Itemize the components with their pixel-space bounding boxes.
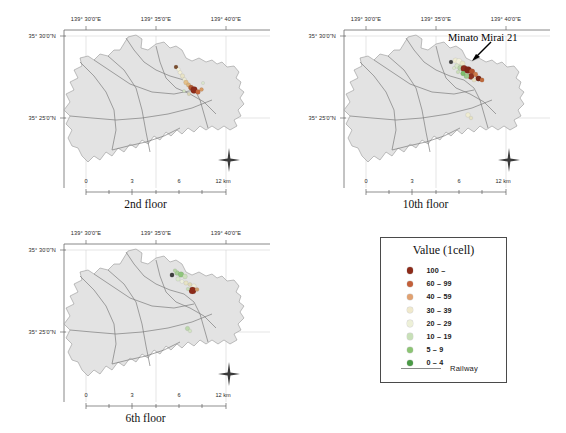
scale-bar	[86, 189, 226, 195]
map-data-point	[461, 71, 466, 76]
lon-tick-2: 139° 40'0"E	[491, 16, 521, 22]
legend-entry-label: 20 – 29	[426, 319, 451, 328]
lon-tick-2: 139° 40'0"E	[211, 16, 241, 22]
scale-tick-2: 6	[457, 178, 460, 184]
annotation-arrow-icon	[472, 42, 491, 61]
scale-tick-0: 0	[84, 178, 87, 184]
yokohama-landmass	[64, 35, 244, 162]
lon-tick-1: 139° 35'0"E	[421, 16, 451, 22]
map-data-point	[186, 287, 190, 291]
legend-entry: 30 – 39	[407, 304, 452, 317]
legend-swatch-icon	[407, 281, 413, 287]
map-data-point	[456, 70, 460, 74]
lon-tick-0: 139° 30'0"E	[71, 16, 101, 22]
panel-title-2nd-floor: 2nd floor	[8, 198, 283, 210]
map-data-point	[183, 274, 188, 279]
lon-tick-0: 139° 30'0"E	[351, 16, 381, 22]
lat-tick-0: 35° 30'0"N	[2, 33, 56, 39]
scale-tick-3: 12 km	[495, 178, 510, 184]
legend-railway-row: Railway	[401, 364, 478, 373]
legend-entry: 40 – 59	[407, 290, 452, 303]
scale-tick-3: 12 km	[215, 178, 230, 184]
legend-swatch-icon	[407, 333, 413, 339]
scale-tick-1: 3	[130, 178, 133, 184]
compass-rose-icon	[498, 148, 520, 172]
lon-tick-2: 139° 40'0"E	[211, 230, 241, 236]
legend-entry-label: 100 –	[426, 266, 445, 275]
compass-rose-icon	[218, 148, 240, 172]
map-data-point	[170, 273, 174, 277]
scale-tick-0: 0	[84, 392, 87, 398]
map-panel-2nd-floor: 139° 30'0"E 139° 35'0"E 139° 40'0"E 35° …	[8, 6, 283, 216]
legend-entry: 20 – 29	[407, 317, 452, 330]
map-data-point	[189, 287, 196, 294]
legend-entry: 10 – 19	[407, 330, 452, 343]
lon-tick-1: 139° 35'0"E	[141, 16, 171, 22]
legend-swatch-icon	[407, 347, 413, 353]
map-data-point	[178, 71, 182, 75]
map-data-point	[182, 89, 185, 92]
legend-entry-label: 5 – 9	[426, 345, 443, 354]
map-data-point	[180, 280, 184, 284]
scale-tick-2: 6	[177, 392, 180, 398]
map-data-point	[452, 66, 455, 69]
legend-entry-list: 100 –60 – 9940 – 5930 – 3920 – 2910 – 19…	[407, 264, 452, 370]
map-data-point	[188, 329, 192, 333]
scale-tick-3: 12 km	[215, 392, 230, 398]
map-data-point	[187, 92, 191, 96]
map-data-point	[195, 288, 199, 292]
map-data-point	[449, 60, 453, 64]
legend-entry-label: 10 – 19	[426, 332, 451, 341]
map-data-point	[184, 281, 188, 285]
legend-swatch-icon	[407, 294, 413, 300]
legend-entry: 5 – 9	[407, 343, 452, 356]
lat-tick-0: 35° 30'0"N	[2, 247, 56, 253]
yokohama-landmass	[64, 249, 244, 376]
scale-bar	[86, 403, 226, 409]
figure-root: 139° 30'0"E 139° 35'0"E 139° 40'0"E 35° …	[0, 0, 566, 433]
legend-railway-label: Railway	[450, 364, 478, 373]
legend-swatch-icon	[407, 267, 413, 273]
legend-panel: Value (1cell) 100 –60 – 9940 – 5930 – 39…	[380, 237, 507, 383]
map-data-point	[472, 78, 476, 82]
map-panel-6th-floor: 139° 30'0"E 139° 35'0"E 139° 40'0"E 35° …	[8, 220, 283, 430]
lat-tick-1: 35° 25'0"N	[282, 115, 336, 121]
legend-title: Value (1cell)	[381, 243, 506, 258]
panel-title-6th-floor: 6th floor	[8, 412, 283, 424]
map-data-point	[176, 277, 180, 281]
map-panel-10th-floor: 139° 30'0"E 139° 35'0"E 139° 40'0"E 35° …	[288, 6, 563, 216]
map-data-point	[173, 269, 177, 273]
legend-entry: 60 – 99	[407, 277, 452, 290]
scale-tick-1: 3	[130, 392, 133, 398]
panel-title-10th-floor: 10th floor	[288, 198, 563, 210]
legend-swatch-icon	[407, 307, 413, 313]
legend-swatch-icon	[407, 320, 413, 326]
yokohama-landmass	[344, 35, 524, 162]
legend-entry-label: 60 – 99	[426, 279, 451, 288]
legend-entry: 100 –	[407, 264, 452, 277]
scale-tick-0: 0	[364, 178, 367, 184]
legend-entry-label: 30 – 39	[426, 306, 451, 315]
lon-tick-1: 139° 35'0"E	[141, 230, 171, 236]
map-data-point	[188, 283, 192, 287]
scale-tick-2: 6	[177, 178, 180, 184]
lat-tick-1: 35° 25'0"N	[2, 115, 56, 121]
lat-tick-1: 35° 25'0"N	[2, 329, 56, 335]
map-data-point	[480, 78, 484, 82]
map-data-point	[201, 81, 204, 84]
lat-tick-0: 35° 30'0"N	[282, 33, 336, 39]
scale-tick-1: 3	[410, 178, 413, 184]
scale-bar	[366, 189, 506, 195]
map-data-point	[469, 116, 473, 120]
lon-tick-0: 139° 30'0"E	[71, 230, 101, 236]
legend-entry-label: 40 – 59	[426, 292, 451, 301]
compass-rose-icon	[218, 362, 240, 386]
minato-mirai-annotation: Minato Mirai 21	[448, 32, 517, 43]
railway-line-icon	[401, 368, 441, 370]
map-data-point	[200, 88, 204, 92]
